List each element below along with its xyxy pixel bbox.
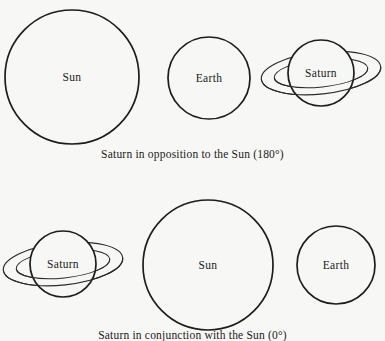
caption-opposition: Saturn in opposition to the Sun (180°) (0, 148, 385, 160)
saturn-label-row2: Saturn (47, 258, 79, 270)
caption-conjunction: Saturn in conjunction with the Sun (0°) (0, 329, 385, 341)
saturn-label-row1: Saturn (305, 67, 337, 79)
sun-label-row1: Sun (63, 71, 82, 83)
sun-label-row2: Sun (199, 259, 218, 271)
earth-label-row2: Earth (323, 259, 349, 271)
earth-label-row1: Earth (196, 72, 222, 84)
